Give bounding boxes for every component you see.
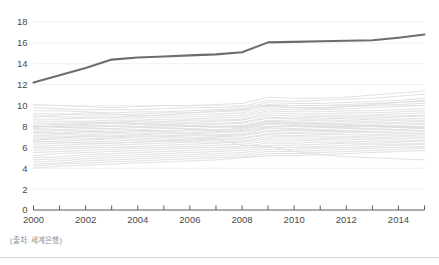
y-axis-tick-labels: 024681012141618 [17, 16, 28, 215]
svg-text:10: 10 [17, 100, 28, 111]
background-series-lines [34, 91, 425, 168]
svg-text:18: 18 [17, 16, 28, 27]
source-caption: (출처: 세계은행) [10, 234, 62, 245]
svg-text:2004: 2004 [127, 214, 148, 225]
svg-text:12: 12 [17, 79, 28, 90]
highlighted-series-line [34, 35, 425, 83]
x-axis-tick-labels: 20002002200420062008201020122014 [23, 214, 409, 225]
svg-text:2: 2 [22, 184, 27, 195]
svg-text:6: 6 [22, 142, 27, 153]
svg-text:2006: 2006 [179, 214, 200, 225]
svg-text:2014: 2014 [388, 214, 409, 225]
svg-text:2000: 2000 [23, 214, 44, 225]
x-axis-ticks [34, 206, 425, 211]
line-chart-plot: 024681012141618 200020022004200620082010… [0, 0, 439, 265]
bottom-divider [0, 257, 439, 258]
svg-text:2010: 2010 [284, 214, 305, 225]
chart-figure: 024681012141618 200020022004200620082010… [0, 0, 439, 265]
svg-text:4: 4 [22, 163, 27, 174]
svg-text:2002: 2002 [75, 214, 96, 225]
svg-text:8: 8 [22, 121, 27, 132]
svg-text:2012: 2012 [336, 214, 357, 225]
svg-text:14: 14 [17, 58, 28, 69]
svg-text:2008: 2008 [231, 214, 252, 225]
svg-text:16: 16 [17, 37, 28, 48]
